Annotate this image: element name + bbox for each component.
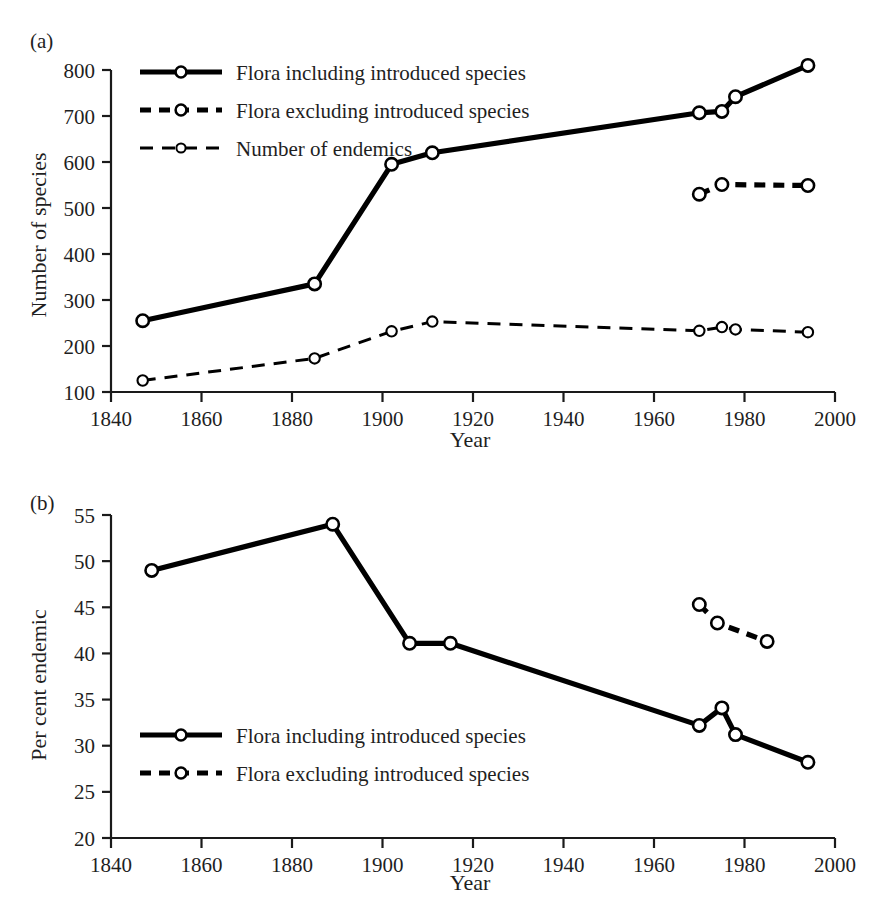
y-tick-label: 55 (74, 504, 95, 528)
panel-b-chart: (b) 2025303540455055 1840186018801900192… (0, 470, 874, 915)
panel-b-x-axis-title: Year (450, 870, 491, 895)
y-tick-label: 600 (64, 151, 96, 175)
data-point-marker (386, 326, 396, 336)
data-point-marker (693, 598, 705, 610)
y-tick-label: 40 (74, 642, 95, 666)
legend-item: Flora including introduced species (140, 724, 526, 748)
y-tick-label: 30 (74, 734, 95, 758)
x-tick-label: 1940 (543, 407, 585, 431)
data-point-marker (309, 353, 319, 363)
legend-marker-icon (176, 67, 187, 78)
legend-item: Flora including introduced species (140, 61, 526, 85)
x-tick-label: 1960 (633, 853, 675, 877)
y-tick-label: 20 (74, 827, 95, 851)
x-tick-label: 1900 (362, 407, 404, 431)
y-tick-label: 200 (64, 335, 96, 359)
series-line (693, 178, 814, 200)
panel-b-legend: Flora including introduced speciesFlora … (140, 724, 529, 786)
panel-a-chart: (a) 100200300400500600700800 18401860188… (0, 0, 874, 470)
y-tick-label: 300 (64, 289, 96, 313)
data-point-marker (761, 635, 773, 647)
y-tick-label: 25 (74, 780, 95, 804)
legend-marker-icon (176, 105, 187, 116)
data-point-marker (802, 756, 814, 768)
data-point-marker (730, 324, 740, 334)
y-tick-label: 100 (64, 381, 96, 405)
data-point-marker (444, 637, 456, 649)
x-tick-label: 1880 (271, 853, 313, 877)
legend-marker-icon (176, 768, 187, 779)
x-tick-label: 1860 (181, 853, 223, 877)
x-tick-label: 1880 (271, 407, 313, 431)
y-tick-label: 800 (64, 59, 96, 83)
x-tick-label: 1900 (362, 853, 404, 877)
x-tick-label: 1860 (181, 407, 223, 431)
legend-label: Flora excluding introduced species (236, 99, 529, 123)
x-tick-label: 1840 (90, 407, 132, 431)
data-point-marker (711, 617, 723, 629)
x-tick-label: 2000 (814, 853, 856, 877)
legend-item: Number of endemics (140, 137, 412, 161)
panel-b-y-ticks (102, 515, 111, 838)
legend-item: Flora excluding introduced species (140, 762, 529, 786)
y-tick-label: 400 (64, 243, 96, 267)
y-tick-label: 45 (74, 596, 95, 620)
legend-item: Flora excluding introduced species (140, 99, 529, 123)
x-tick-label: 1980 (724, 853, 766, 877)
data-point-marker (716, 105, 728, 117)
legend-label: Flora including introduced species (236, 61, 526, 85)
x-tick-label: 2000 (814, 407, 856, 431)
panel-a-x-axis-title: Year (450, 427, 491, 452)
data-point-marker (729, 728, 741, 740)
x-tick-label: 1940 (543, 853, 585, 877)
data-point-marker (717, 322, 727, 332)
legend-marker-icon (176, 730, 187, 741)
data-point-marker (729, 91, 741, 103)
panel-b-y-tick-labels: 2025303540455055 (74, 504, 95, 851)
legend-label: Number of endemics (236, 137, 412, 161)
data-point-marker (426, 147, 438, 159)
data-point-marker (327, 518, 339, 530)
figure-container: (a) 100200300400500600700800 18401860188… (0, 0, 874, 915)
data-point-marker (308, 278, 320, 290)
data-point-marker (138, 375, 148, 385)
panel-a-y-tick-labels: 100200300400500600700800 (64, 59, 96, 405)
panel-a-y-axis-title: Number of species (26, 153, 51, 318)
y-tick-label: 500 (64, 197, 96, 221)
series-line (693, 598, 773, 647)
data-point-marker (427, 316, 437, 326)
panel-b-label: (b) (30, 491, 55, 515)
data-point-marker (137, 315, 149, 327)
legend-marker-icon (176, 143, 185, 152)
data-point-marker (693, 107, 705, 119)
legend-label: Flora including introduced species (236, 724, 526, 748)
data-point-marker (403, 637, 415, 649)
panel-b-y-axis-title: Per cent endemic (26, 609, 51, 761)
legend-label: Flora excluding introduced species (236, 762, 529, 786)
panel-b-x-ticks (111, 838, 835, 848)
data-point-marker (694, 326, 704, 336)
series-line (138, 316, 814, 385)
data-point-marker (716, 702, 728, 714)
data-point-marker (803, 327, 813, 337)
y-tick-label: 35 (74, 688, 95, 712)
panel-a-label: (a) (30, 29, 53, 53)
data-point-marker (802, 179, 814, 191)
x-tick-label: 1960 (633, 407, 675, 431)
data-point-marker (802, 59, 814, 71)
data-point-marker (716, 178, 728, 190)
data-point-marker (693, 188, 705, 200)
data-point-marker (146, 564, 158, 576)
panel-a-x-ticks (111, 392, 835, 402)
y-tick-label: 700 (64, 105, 96, 129)
x-tick-label: 1980 (724, 407, 766, 431)
data-point-marker (693, 719, 705, 731)
y-tick-label: 50 (74, 550, 95, 574)
panel-a-y-ticks (102, 70, 111, 392)
x-tick-label: 1840 (90, 853, 132, 877)
